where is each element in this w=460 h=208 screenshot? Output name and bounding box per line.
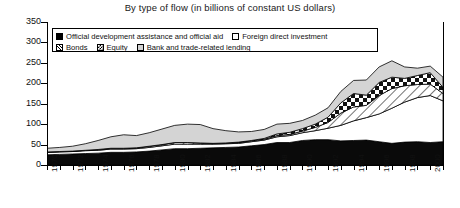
x-axis-label: 1982 bbox=[203, 154, 212, 172]
x-axis-tick bbox=[149, 165, 150, 170]
legend-swatch-fdi bbox=[232, 33, 239, 40]
legend-entry-oda[interactable]: Official development assistance and offi… bbox=[56, 32, 223, 41]
legend-row-2: Bonds Equity Bank and trade-related lend… bbox=[56, 42, 374, 52]
legend-entry-fdi[interactable]: Foreign direct investment bbox=[232, 32, 327, 41]
legend-label-bank: Bank and trade-related lending bbox=[147, 43, 251, 52]
x-axis-tick bbox=[213, 165, 214, 170]
x-axis-label: 1990 bbox=[305, 154, 314, 172]
legend-swatch-oda bbox=[56, 33, 63, 40]
x-axis-tick bbox=[85, 165, 86, 170]
x-axis-tick bbox=[341, 165, 342, 170]
y-axis-label: 50 bbox=[15, 139, 41, 149]
legend-entry-bank[interactable]: Bank and trade-related lending bbox=[137, 43, 251, 52]
x-axis-tick bbox=[200, 165, 201, 170]
legend-label-oda: Official development assistance and offi… bbox=[66, 32, 223, 41]
x-axis-tick bbox=[354, 165, 355, 170]
x-axis-label: 1994 bbox=[357, 154, 366, 172]
x-axis-label: 1978 bbox=[152, 154, 161, 172]
x-axis-tick bbox=[60, 165, 61, 170]
legend-entry-bonds[interactable]: Bonds bbox=[56, 43, 88, 52]
legend-label-equity: Equity bbox=[107, 43, 128, 52]
x-axis-tick bbox=[379, 165, 380, 170]
x-axis-tick bbox=[290, 165, 291, 170]
x-axis-tick bbox=[111, 165, 112, 170]
x-axis-tick bbox=[251, 165, 252, 170]
x-axis-label: 1988 bbox=[280, 154, 289, 172]
x-axis-label: 1992 bbox=[331, 154, 340, 172]
legend-entry-equity[interactable]: Equity bbox=[97, 43, 128, 52]
x-axis-label: 1976 bbox=[127, 154, 136, 172]
x-axis-label: 1974 bbox=[101, 154, 110, 172]
y-axis-label: 300 bbox=[15, 36, 41, 46]
y-axis-label: 100 bbox=[15, 118, 41, 128]
y-axis-label: 350 bbox=[15, 16, 41, 26]
x-axis-tick bbox=[162, 165, 163, 170]
chart-container: By type of flow (in billions of constant… bbox=[0, 0, 460, 208]
x-axis-tick bbox=[264, 165, 265, 170]
x-axis-tick bbox=[124, 165, 125, 170]
x-axis-label: 1984 bbox=[229, 154, 238, 172]
x-axis-tick bbox=[239, 165, 240, 170]
x-axis-tick bbox=[302, 165, 303, 170]
x-axis-tick bbox=[328, 165, 329, 170]
x-axis-tick bbox=[443, 165, 444, 170]
x-axis-label: 1972 bbox=[76, 154, 85, 172]
x-axis-tick bbox=[366, 165, 367, 170]
chart-title: By type of flow (in billions of constant… bbox=[0, 2, 460, 13]
x-axis-label: 2000 bbox=[433, 154, 442, 172]
x-axis-tick bbox=[392, 165, 393, 170]
y-axis-label: 150 bbox=[15, 98, 41, 108]
legend-swatch-equity bbox=[97, 44, 104, 51]
legend-swatch-bank bbox=[137, 44, 144, 51]
x-axis-label: 1986 bbox=[254, 154, 263, 172]
right-axis-line bbox=[443, 22, 444, 166]
x-axis-tick bbox=[315, 165, 316, 170]
legend-swatch-bonds bbox=[56, 44, 63, 51]
y-axis-line bbox=[47, 22, 48, 166]
x-axis-tick bbox=[405, 165, 406, 170]
x-axis-tick bbox=[175, 165, 176, 170]
x-axis-tick bbox=[136, 165, 137, 170]
x-axis-label: 1970 bbox=[50, 154, 59, 172]
x-axis-tick bbox=[226, 165, 227, 170]
x-axis-tick bbox=[47, 165, 48, 170]
legend-row-1: Official development assistance and offi… bbox=[56, 31, 374, 41]
y-axis-labels: 050100150200250300350 bbox=[11, 0, 41, 208]
y-axis-label: 0 bbox=[15, 159, 41, 169]
legend-label-bonds: Bonds bbox=[66, 43, 88, 52]
x-axis-label: 1980 bbox=[178, 154, 187, 172]
y-axis-label: 250 bbox=[15, 57, 41, 67]
x-axis-tick bbox=[73, 165, 74, 170]
y-axis-label: 200 bbox=[15, 77, 41, 87]
chart-legend: Official development assistance and offi… bbox=[52, 28, 378, 52]
x-axis-label: 1996 bbox=[382, 154, 391, 172]
legend-label-fdi: Foreign direct investment bbox=[242, 32, 327, 41]
x-axis-label: 1998 bbox=[408, 154, 417, 172]
x-axis-tick bbox=[430, 165, 431, 170]
x-axis-tick bbox=[277, 165, 278, 170]
x-axis-tick bbox=[98, 165, 99, 170]
x-axis-tick bbox=[417, 165, 418, 170]
x-axis-tick bbox=[188, 165, 189, 170]
